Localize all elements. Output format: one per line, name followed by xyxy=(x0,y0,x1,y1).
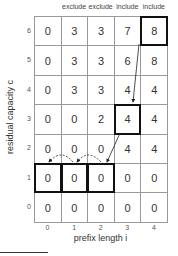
row-label: 4 xyxy=(26,86,32,93)
table-cell: 0 xyxy=(87,163,115,193)
row-label: 3 xyxy=(26,115,32,122)
table-cell: 3 xyxy=(61,75,89,105)
row-label: 5 xyxy=(26,56,32,63)
table-cell: 0 xyxy=(114,163,142,193)
table-cell: 0 xyxy=(61,134,89,164)
row-label: 1 xyxy=(26,174,32,181)
column-label: 0 xyxy=(34,224,61,231)
x-axis-label: prefix length i xyxy=(34,233,167,243)
table-cell: 8 xyxy=(140,45,168,75)
table-cell: 6 xyxy=(114,45,142,75)
table-cell: 3 xyxy=(87,16,115,46)
table-cell: 0 xyxy=(140,163,168,193)
table-cell: 4 xyxy=(140,104,168,134)
column-label: 4 xyxy=(140,224,167,231)
table-cell: 4 xyxy=(114,134,142,164)
table-cell: 0 xyxy=(34,104,62,134)
table-cell: 0 xyxy=(114,192,142,222)
table-cell: 0 xyxy=(140,192,168,222)
column-header: exclude xyxy=(87,3,114,10)
column-header: include xyxy=(114,3,141,10)
table-cell: 0 xyxy=(61,192,89,222)
table-cell: 4 xyxy=(114,104,142,134)
table-cell: 0 xyxy=(87,192,115,222)
column-label: 3 xyxy=(114,224,141,231)
table-cell: 0 xyxy=(61,104,89,134)
table-cell: 0 xyxy=(34,45,62,75)
table-cell: 3 xyxy=(61,16,89,46)
row-label: 0 xyxy=(26,203,32,210)
table-cell: 0 xyxy=(87,134,115,164)
table-cell: 4 xyxy=(114,75,142,105)
table-cell: 3 xyxy=(87,45,115,75)
table-cell: 4 xyxy=(140,75,168,105)
y-axis-label: residual capacity c xyxy=(5,69,15,165)
column-header: include xyxy=(140,3,167,10)
column-label: 1 xyxy=(61,224,88,231)
table-cell: 7 xyxy=(114,16,142,46)
table-cell: 4 xyxy=(140,134,168,164)
dp-table: 03378033680334400244000440000000000 xyxy=(34,16,167,222)
table-cell: 0 xyxy=(34,192,62,222)
footnote-rule xyxy=(0,252,48,253)
table-cell: 3 xyxy=(61,45,89,75)
table-cell: 0 xyxy=(34,16,62,46)
table-cell: 8 xyxy=(140,16,168,46)
row-label: 6 xyxy=(26,27,32,34)
row-label: 2 xyxy=(26,144,32,151)
table-cell: 3 xyxy=(87,75,115,105)
table-cell: 0 xyxy=(34,134,62,164)
column-label: 2 xyxy=(87,224,114,231)
column-header: exclude xyxy=(61,3,88,10)
table-cell: 0 xyxy=(34,75,62,105)
table-cell: 0 xyxy=(61,163,89,193)
table-cell: 2 xyxy=(87,104,115,134)
table-cell: 0 xyxy=(34,163,62,193)
